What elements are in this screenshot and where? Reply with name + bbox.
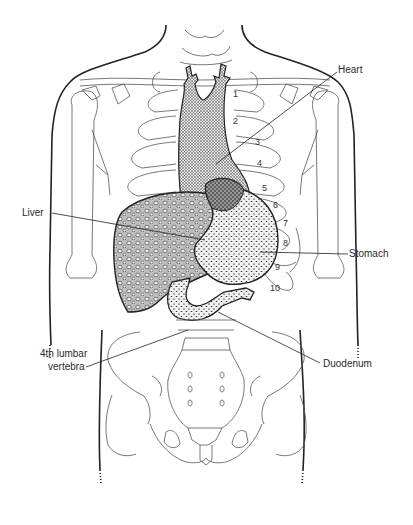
- stomach-label: Stomach: [349, 248, 388, 260]
- rib-number-6: 6: [273, 200, 278, 210]
- rib-number-8: 8: [283, 238, 288, 248]
- liver-label: Liver: [22, 207, 44, 219]
- rib-number-10: 10: [270, 283, 280, 293]
- duodenum-leader: [218, 312, 320, 363]
- rib-number-2: 2: [233, 116, 238, 126]
- rib-number-1: 1: [233, 89, 238, 99]
- rib-number-5: 5: [262, 183, 267, 193]
- pelvis-and-spine: [106, 320, 306, 465]
- lumbar-label-line1: 4th lumbar: [40, 348, 87, 360]
- heart-label: Heart: [338, 64, 362, 76]
- duodenum-label: Duodenum: [323, 358, 372, 370]
- rib-number-3: 3: [255, 137, 260, 147]
- rib-number-9: 9: [275, 262, 280, 272]
- lumbar-label-line2: vertebra: [48, 361, 85, 373]
- shoulder-girdle: [80, 30, 330, 104]
- stomach-organ: [194, 179, 278, 285]
- rib-number-4: 4: [257, 158, 262, 168]
- anatomy-diagram: 1 2 3 4 5 6 7 8 9 10: [0, 0, 413, 525]
- rib-number-7: 7: [283, 218, 288, 228]
